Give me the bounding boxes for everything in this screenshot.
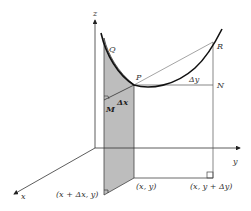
- base-point-x-plus-dx: (x + Δx, y): [56, 190, 98, 199]
- point-Q-label: Q: [109, 45, 116, 54]
- point-P-label: P: [135, 73, 142, 82]
- x-axis-label: x: [21, 192, 26, 201]
- secant-line-PR: [134, 42, 213, 85]
- point-M-label: M: [105, 104, 116, 114]
- z-axis-label: z: [92, 9, 98, 18]
- point-N-label: N: [216, 81, 225, 90]
- x-axis: [14, 148, 95, 194]
- diagram: z y x Q P R N M Δx Δy (x + Δx, y) (x, y)…: [0, 0, 251, 211]
- diagram-canvas: z y x Q P R N M Δx Δy (x + Δx, y) (x, y)…: [0, 0, 251, 211]
- delta-y-label: Δy: [188, 75, 200, 84]
- base-point-y-plus-dy: (x, y + Δy): [190, 182, 232, 191]
- right-angle-marker-ydy: [207, 172, 213, 178]
- base-point-xy: (x, y): [136, 182, 156, 191]
- shaded-slice: [104, 38, 134, 195]
- point-R-label: R: [216, 42, 223, 51]
- delta-x-label: Δx: [116, 97, 128, 107]
- y-axis-label: y: [232, 157, 238, 166]
